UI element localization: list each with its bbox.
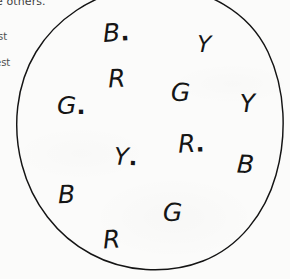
letter-g-3: G [163, 200, 183, 225]
letter-glyph: Y [114, 143, 130, 171]
letter-b-3: B [58, 182, 76, 208]
letter-glyph: R [102, 224, 121, 254]
letter-y-3: Y. [114, 145, 138, 170]
letter-r-3: R [102, 226, 121, 252]
letter-glyph: Y [197, 31, 212, 57]
letter-glyph: R [177, 129, 196, 159]
letter-b-2: B [236, 152, 254, 178]
letter-period: . [76, 92, 85, 120]
scanned-page: e others. st est B.YRG.GYR.Y.BBGR [0, 0, 290, 279]
letter-g-2: G [171, 80, 191, 105]
letter-period: . [119, 18, 130, 47]
letter-r-2: R. [177, 130, 205, 157]
letter-glyph: B [57, 180, 75, 210]
letter-glyph: G [163, 198, 183, 227]
letter-b-1: B. [102, 19, 130, 47]
letter-glyph: B [236, 150, 255, 180]
letter-r-1: R [107, 66, 126, 92]
letter-y-2: Y [240, 91, 256, 117]
letter-glyph: B [102, 18, 121, 48]
letter-glyph: R [107, 64, 126, 94]
hand-drawn-circle [0, 0, 290, 279]
letter-period: . [128, 144, 138, 170]
letter-period: . [195, 129, 205, 157]
letter-glyph: G [57, 91, 76, 120]
letter-glyph: Y [239, 89, 255, 119]
letter-g-1: G. [57, 93, 85, 119]
letter-glyph: G [171, 78, 191, 107]
letter-y-1: Y [197, 33, 212, 56]
